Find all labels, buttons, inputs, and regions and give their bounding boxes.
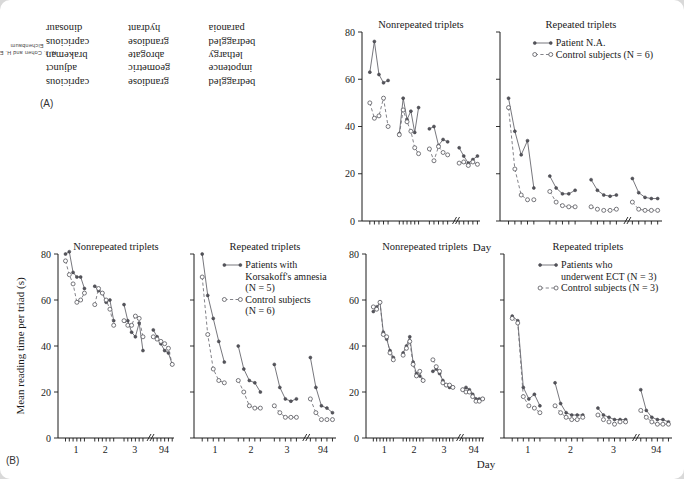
axes bbox=[58, 254, 174, 438]
data-point bbox=[108, 299, 111, 302]
data-point bbox=[431, 358, 435, 362]
data-point bbox=[427, 147, 431, 151]
data-point bbox=[607, 420, 611, 424]
data-point bbox=[519, 193, 523, 197]
word-cell: abrogate bbox=[122, 49, 202, 62]
data-point bbox=[538, 404, 541, 407]
chart-title: Repeated triplets bbox=[553, 241, 624, 252]
data-point bbox=[284, 397, 287, 400]
data-point bbox=[446, 153, 450, 157]
data-point bbox=[465, 386, 468, 389]
data-point bbox=[434, 365, 438, 369]
data-point bbox=[123, 303, 126, 306]
data-point bbox=[382, 96, 386, 100]
series-line bbox=[550, 176, 575, 194]
data-point bbox=[607, 416, 610, 419]
y-tick-label: 40 bbox=[345, 121, 355, 132]
y-tick-label: 80 bbox=[345, 27, 355, 38]
legend-point bbox=[555, 264, 558, 267]
y-tick-label: 0 bbox=[354, 433, 359, 444]
data-point bbox=[516, 321, 520, 325]
legend-label: Control subjects (N = 6) bbox=[556, 49, 653, 61]
axes bbox=[362, 32, 480, 221]
data-point bbox=[457, 161, 461, 165]
data-point bbox=[631, 177, 634, 180]
x-tick-label: 94 bbox=[318, 444, 328, 455]
data-point bbox=[554, 200, 558, 204]
y-tick-label: 20 bbox=[349, 387, 359, 398]
data-point bbox=[411, 362, 415, 366]
data-point bbox=[112, 323, 116, 327]
data-point bbox=[64, 259, 68, 263]
series-patient bbox=[368, 40, 479, 165]
word-cell: brakeman bbox=[40, 49, 122, 62]
data-point bbox=[609, 195, 612, 198]
data-point bbox=[206, 294, 209, 297]
series-line bbox=[555, 383, 583, 415]
x-tick-label: 1 bbox=[525, 444, 530, 455]
y-tick-label: 60 bbox=[345, 74, 355, 85]
legend-marker bbox=[222, 298, 242, 302]
data-point bbox=[602, 194, 605, 197]
data-point bbox=[570, 414, 573, 417]
series-line bbox=[632, 178, 657, 198]
data-point bbox=[432, 159, 436, 163]
word-row: paranoiahydrantdinosaur bbox=[40, 22, 290, 35]
data-point bbox=[413, 146, 417, 150]
data-point bbox=[388, 351, 392, 355]
data-point bbox=[126, 319, 129, 322]
data-point bbox=[555, 186, 558, 189]
data-point bbox=[624, 420, 628, 424]
legend-point bbox=[222, 298, 226, 302]
legend-point bbox=[533, 42, 536, 45]
data-point bbox=[615, 194, 618, 197]
y-tick-label: 80 bbox=[349, 249, 359, 260]
series-line bbox=[274, 364, 296, 401]
data-point bbox=[79, 276, 82, 279]
data-point bbox=[413, 131, 416, 134]
data-point bbox=[513, 130, 516, 133]
data-point bbox=[68, 250, 71, 253]
data-point bbox=[630, 200, 634, 204]
data-point bbox=[375, 307, 379, 311]
plot-korsakoff-nonrepeated: Nonrepeated triplets02040608012394Mean r… bbox=[12, 232, 180, 470]
data-point bbox=[201, 253, 204, 256]
word-row: bedraggledgrandiosecapricious bbox=[40, 76, 290, 89]
data-point bbox=[431, 370, 434, 373]
data-point bbox=[666, 422, 670, 426]
data-point bbox=[325, 407, 328, 410]
data-point bbox=[79, 298, 83, 302]
data-point bbox=[159, 339, 163, 343]
data-point bbox=[437, 145, 441, 149]
word-rows: bedraggledgrandiosecapriciousimpotencege… bbox=[40, 22, 290, 89]
data-point bbox=[560, 204, 564, 208]
plot-ect-repeated: Repeated triplets12394Patients whounderw… bbox=[492, 232, 678, 470]
word-row: impotencegeometricadjunct bbox=[40, 62, 290, 75]
x-tick-label: 2 bbox=[248, 444, 253, 455]
legend-label: Patients with bbox=[245, 259, 297, 270]
chart-title: Nonrepeated triplets bbox=[378, 19, 463, 30]
x-tick-label: 94 bbox=[651, 444, 661, 455]
data-point bbox=[471, 395, 475, 399]
data-point bbox=[130, 323, 134, 327]
data-point bbox=[522, 386, 525, 389]
data-point bbox=[223, 361, 226, 364]
word-cell: geometric bbox=[122, 62, 202, 75]
data-point bbox=[644, 196, 647, 199]
legend-label: Patient N.A. bbox=[556, 37, 606, 48]
data-point bbox=[655, 422, 659, 426]
word-cell: bedraggled bbox=[203, 76, 290, 89]
data-point bbox=[613, 422, 617, 426]
word-cell: dinosaur bbox=[40, 22, 122, 35]
data-point bbox=[155, 337, 159, 341]
data-point bbox=[649, 208, 653, 212]
data-point bbox=[397, 133, 401, 137]
data-point bbox=[475, 162, 479, 166]
axes bbox=[366, 254, 484, 438]
data-point bbox=[618, 420, 622, 424]
y-tick-label: 0 bbox=[350, 216, 355, 227]
x-tick-label: 3 bbox=[611, 444, 616, 455]
data-point bbox=[650, 416, 653, 419]
x-tick-label: 2 bbox=[412, 444, 417, 455]
data-point bbox=[75, 276, 78, 279]
